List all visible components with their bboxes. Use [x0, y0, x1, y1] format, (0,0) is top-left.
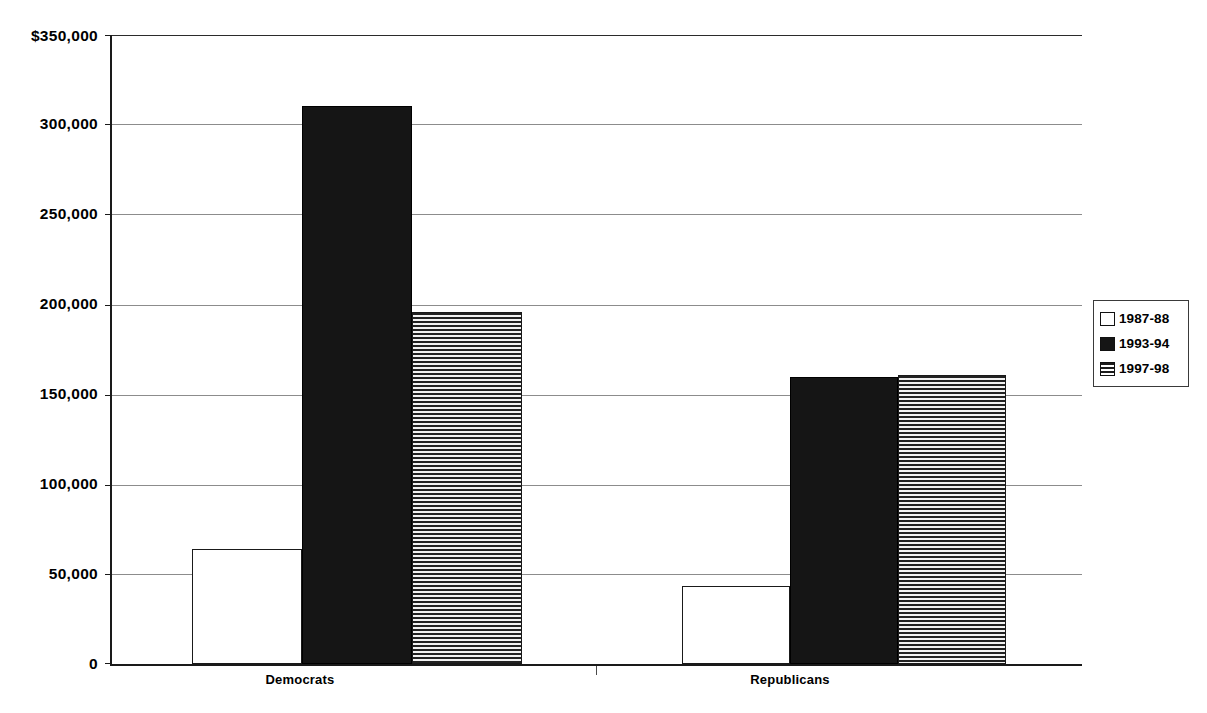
- bar-democrats-1993-94: [302, 106, 412, 664]
- y-axis-tick-label: 50,000: [0, 566, 98, 582]
- striped-square-swatch-icon: [1100, 362, 1115, 376]
- gridline-200000: [112, 305, 1082, 306]
- bar-republicans-1997-98: [898, 375, 1006, 664]
- gridline-300000: [112, 124, 1082, 125]
- plot-top-border: [112, 35, 1082, 36]
- bar-chart: $350,000 300,000 250,000 200,000 150,000…: [0, 0, 1207, 713]
- y-axis-tick-label: 200,000: [0, 296, 98, 312]
- y-axis-tick-label: $350,000: [0, 28, 98, 44]
- y-axis-tick-labels: $350,000 300,000 250,000 200,000 150,000…: [0, 0, 98, 713]
- legend-item-1993-94[interactable]: 1993-94: [1100, 331, 1183, 356]
- y-axis-tick-label: 0: [0, 656, 98, 672]
- plot-area: [110, 36, 1082, 664]
- y-tick-mark: [105, 574, 112, 575]
- y-tick-mark: [105, 124, 112, 125]
- chart-legend: 1987-88 1993-94 1997-98: [1093, 300, 1189, 387]
- y-tick-mark: [105, 395, 112, 396]
- x-axis-category-label-republicans: Republicans: [680, 672, 900, 687]
- y-tick-mark: [105, 305, 112, 306]
- black-square-swatch-icon: [1100, 337, 1115, 351]
- y-axis-tick-label: 150,000: [0, 386, 98, 402]
- y-axis-tick-label: 250,000: [0, 206, 98, 222]
- white-square-swatch-icon: [1100, 312, 1115, 326]
- legend-item-1987-88[interactable]: 1987-88: [1100, 306, 1183, 331]
- x-axis-baseline: [110, 664, 1082, 666]
- legend-item-1997-98[interactable]: 1997-98: [1100, 356, 1183, 381]
- y-axis-tick-label: 100,000: [0, 476, 98, 492]
- bar-republicans-1987-88: [682, 586, 790, 664]
- legend-item-label: 1993-94: [1119, 336, 1169, 351]
- bar-republicans-1993-94: [790, 377, 898, 664]
- x-axis-category-label-democrats: Democrats: [190, 672, 410, 687]
- y-tick-mark: [105, 35, 112, 36]
- legend-item-label: 1987-88: [1119, 311, 1169, 326]
- y-tick-mark: [105, 485, 112, 486]
- bar-democrats-1997-98: [412, 312, 522, 664]
- y-axis-tick-label: 300,000: [0, 116, 98, 132]
- bar-democrats-1987-88: [192, 549, 302, 664]
- legend-item-label: 1997-98: [1119, 361, 1169, 376]
- y-tick-mark: [105, 214, 112, 215]
- gridline-250000: [112, 214, 1082, 215]
